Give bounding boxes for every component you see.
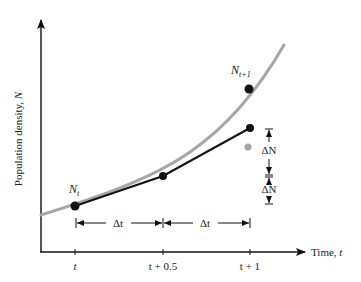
label-n-t-plus-1: Nt+1 bbox=[230, 63, 251, 79]
tick-label-t-half: t + 0.5 bbox=[149, 260, 178, 272]
axes bbox=[40, 20, 305, 252]
tick-label-t-plus-1: t + 1 bbox=[240, 260, 260, 272]
point-midpoint bbox=[159, 172, 167, 180]
y-axis-label: Population density, N bbox=[12, 91, 24, 186]
delta-n-label-2: ΔN bbox=[261, 183, 276, 195]
delta-n-label-1: ΔN bbox=[261, 144, 276, 156]
euler-diagram: Population density, N Time, t t t + 0.5 … bbox=[0, 0, 361, 282]
label-n-t: Nt bbox=[68, 182, 80, 198]
delta-t-label-1: Δt bbox=[113, 217, 123, 229]
point-gray-estimate bbox=[245, 144, 252, 151]
point-euler-end bbox=[246, 124, 254, 132]
x-axis-label: Time, t bbox=[311, 246, 343, 258]
point-n-t-plus-1 bbox=[245, 85, 254, 94]
delta-n-dimensions: ΔN ΔN bbox=[261, 129, 276, 204]
delta-t-label-2: Δt bbox=[200, 217, 210, 229]
tick-label-t: t bbox=[73, 260, 77, 272]
point-n-t bbox=[71, 202, 80, 211]
delta-t-dimensions: Δt Δt bbox=[76, 217, 250, 229]
